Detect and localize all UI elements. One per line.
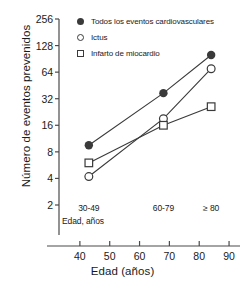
data-point-filled-circle: [159, 89, 167, 97]
data-point-filled-circle: [207, 51, 215, 59]
plot-area: [0, 0, 245, 282]
data-point-open-circle: [207, 65, 215, 73]
data-point-open-square: [160, 121, 168, 129]
data-point-open-square: [207, 103, 215, 111]
data-point-open-square: [85, 159, 93, 167]
data-point-filled-circle: [85, 141, 93, 149]
series-line: [89, 69, 211, 177]
series-line: [89, 107, 211, 163]
chart-figure: Número de eventos prevenidos Edad (años)…: [0, 0, 245, 282]
data-point-open-circle: [85, 173, 93, 181]
